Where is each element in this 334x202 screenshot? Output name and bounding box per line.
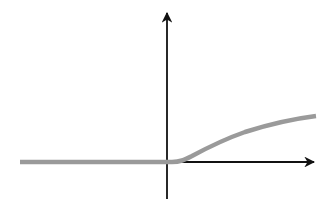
function-graph-diagram [0, 0, 334, 202]
function-curve [20, 116, 316, 162]
graph-canvas [0, 0, 334, 202]
